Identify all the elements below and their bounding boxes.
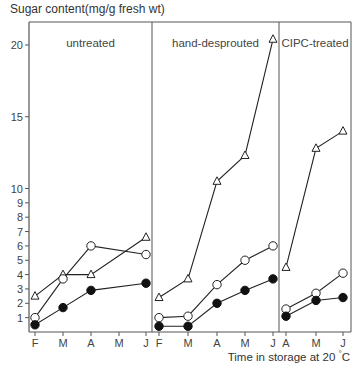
- filled-circle-marker: [87, 286, 95, 294]
- x-tick-label: F: [156, 337, 163, 349]
- open-circle-marker: [339, 269, 347, 277]
- panel-title: untreated: [66, 37, 115, 49]
- x-tick-label: M: [311, 337, 320, 349]
- filled-circle-marker: [184, 322, 192, 330]
- triangle-marker: [312, 144, 320, 152]
- triangle-marker: [213, 177, 221, 185]
- filled-circle-marker: [339, 293, 347, 301]
- y-tick-label: 8: [17, 211, 23, 223]
- y-tick-label: 3: [17, 283, 23, 295]
- y-tick-label: 1: [17, 312, 23, 324]
- x-tick-label: M: [58, 337, 67, 349]
- y-tick-label: 9: [17, 197, 23, 209]
- triangle-marker: [31, 292, 39, 300]
- y-tick-label: 4: [17, 269, 23, 281]
- x-tick-label: J: [270, 337, 276, 349]
- triangle-marker: [269, 35, 277, 43]
- y-tick-label: 15: [11, 111, 23, 123]
- filled-circle-marker: [312, 296, 320, 304]
- x-tick-label: F: [32, 337, 39, 349]
- triangle-marker: [241, 151, 249, 159]
- triangle-marker: [155, 293, 163, 301]
- open-circle-marker: [59, 275, 67, 283]
- open-circle-marker: [184, 312, 192, 320]
- y-tick-label: 7: [17, 226, 23, 238]
- panel-title: CIPC-treated: [281, 37, 348, 49]
- open-circle-marker: [213, 280, 221, 288]
- series-line-open-triangle: [159, 39, 273, 297]
- panel-cipc-treated: CIPC-treatedAMJ: [281, 37, 348, 349]
- plot-frame: [29, 22, 351, 332]
- open-circle-marker: [142, 250, 150, 258]
- filled-circle-marker: [155, 322, 163, 330]
- open-circle-marker: [87, 242, 95, 250]
- triangle-marker: [142, 233, 150, 241]
- filled-circle-marker: [59, 303, 67, 311]
- triangle-marker: [184, 274, 192, 282]
- open-circle-marker: [241, 256, 249, 264]
- x-tick-label: M: [240, 337, 249, 349]
- x-axis-title: Time in storage at 20 °C: [228, 349, 350, 363]
- filled-circle-marker: [31, 321, 39, 329]
- x-tick-label: M: [183, 337, 192, 349]
- triangle-marker: [87, 270, 95, 278]
- y-tick-label: 6: [17, 240, 23, 252]
- y-tick-label: 10: [11, 183, 23, 195]
- y-tick-label: 5: [17, 254, 23, 266]
- panel-hand-desprouted: hand-desproutedFMAMJ: [155, 35, 277, 349]
- panels: untreatedFMAMJhand-desproutedFMAMJCIPC-t…: [31, 35, 349, 349]
- filled-circle-marker: [241, 286, 249, 294]
- filled-circle-marker: [142, 279, 150, 287]
- x-tick-label: A: [282, 337, 290, 349]
- x-axis-title-text: Time in storage at 20: [228, 351, 339, 363]
- filled-circle-marker: [269, 275, 277, 283]
- x-tick-label: A: [87, 337, 95, 349]
- y-axis: 123456789101520: [11, 39, 29, 324]
- y-tick-label: 2: [17, 297, 23, 309]
- panel-title: hand-desprouted: [172, 37, 259, 49]
- series-line-open-circle: [35, 246, 146, 318]
- x-axis-unit: C: [342, 351, 350, 363]
- filled-circle-marker: [213, 299, 221, 307]
- x-tick-label: J: [340, 337, 346, 349]
- panel-untreated: untreatedFMAMJ: [31, 37, 150, 349]
- filled-circle-marker: [282, 312, 290, 320]
- open-circle-marker: [269, 242, 277, 250]
- x-tick-label: A: [213, 337, 221, 349]
- triangle-marker: [339, 127, 347, 135]
- sugar-content-chart: 123456789101520 untreatedFMAMJhand-despr…: [0, 0, 364, 378]
- y-tick-label: 20: [11, 39, 23, 51]
- open-circle-marker: [155, 313, 163, 321]
- x-tick-label: M: [114, 337, 123, 349]
- x-tick-label: J: [143, 337, 149, 349]
- triangle-marker: [282, 263, 290, 271]
